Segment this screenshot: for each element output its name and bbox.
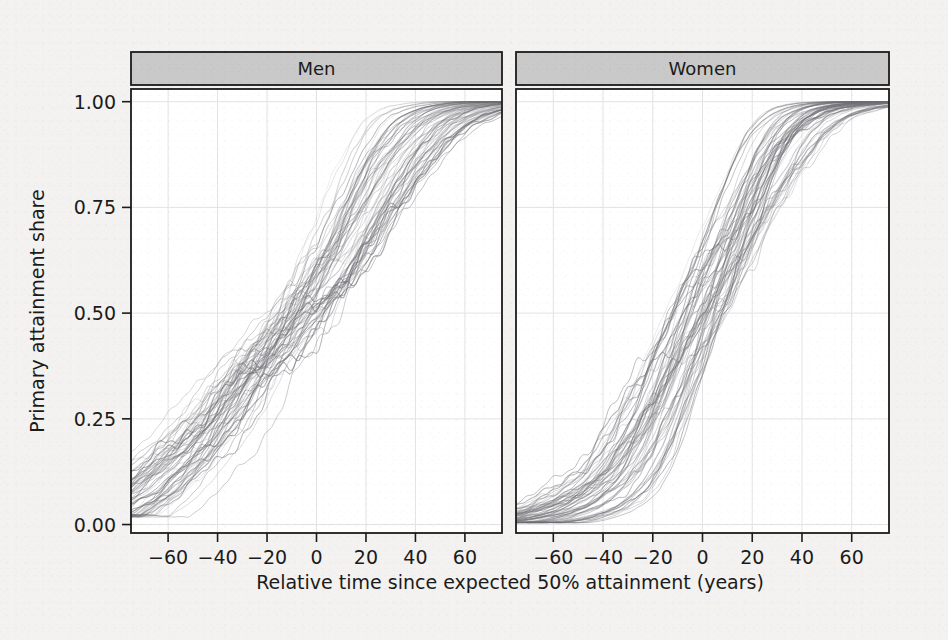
x-tick-label: 0 — [310, 546, 322, 568]
x-tick-label: 60 — [453, 546, 477, 568]
facet-panel-men: Men−60−40−200204060 — [131, 52, 502, 568]
y-tick-label: 0.50 — [74, 302, 116, 324]
figure-canvas: Primary attainment share Relative time s… — [0, 0, 948, 640]
facet-strip-label: Women — [669, 58, 737, 79]
x-tick-label: −40 — [583, 546, 623, 568]
chart-svg: Primary attainment share Relative time s… — [0, 0, 948, 640]
x-axis: −60−40−200204060 — [533, 533, 864, 568]
y-tick-label: 0.00 — [74, 514, 116, 536]
facet-panels: Men−60−40−200204060Women−60−40−200204060 — [131, 52, 889, 568]
facet-strip-label: Men — [297, 58, 335, 79]
x-tick-label: 0 — [696, 546, 708, 568]
x-axis-title: Relative time since expected 50% attainm… — [256, 571, 764, 593]
y-axis: 0.000.250.500.751.00 — [74, 91, 131, 536]
x-tick-label: 40 — [790, 546, 814, 568]
x-tick-label: −20 — [247, 546, 287, 568]
y-tick-label: 0.25 — [74, 408, 116, 430]
x-tick-label: −40 — [198, 546, 238, 568]
y-tick-label: 1.00 — [74, 91, 116, 113]
x-tick-label: −60 — [533, 546, 573, 568]
x-tick-label: 40 — [403, 546, 427, 568]
y-axis-title: Primary attainment share — [26, 189, 48, 432]
x-tick-label: −60 — [148, 546, 188, 568]
x-tick-label: 20 — [740, 546, 764, 568]
x-axis: −60−40−200204060 — [148, 533, 477, 568]
x-tick-label: 60 — [840, 546, 864, 568]
facet-panel-women: Women−60−40−200204060 — [516, 52, 889, 568]
x-tick-label: −20 — [633, 546, 673, 568]
y-tick-label: 0.75 — [74, 196, 116, 218]
x-tick-label: 20 — [354, 546, 378, 568]
